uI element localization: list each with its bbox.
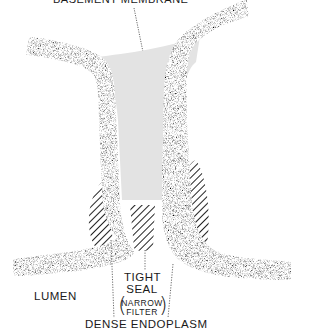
filter-line2: FILTER (120, 308, 164, 317)
close-paren: ) (159, 294, 168, 316)
tight-seal-label: TIGHT SEAL (124, 271, 160, 295)
basement-membrane-label: BASEMENT MEMBRANE (53, 0, 188, 5)
lumen-label: LUMEN (34, 291, 77, 303)
basement-membrane-pointer (134, 8, 143, 52)
narrow-filter-label: NARROW FILTER (120, 299, 164, 317)
tight-seal-line2: SEAL (124, 283, 160, 295)
right-cell-membrane (162, 0, 291, 280)
tight-seal-region (130, 205, 155, 251)
tight-seal-line1: TIGHT (124, 271, 160, 283)
dense-endoplasm-label: DENSE ENDOPLASM (85, 319, 208, 331)
dense-endoplasm-pointer-right (168, 264, 173, 318)
